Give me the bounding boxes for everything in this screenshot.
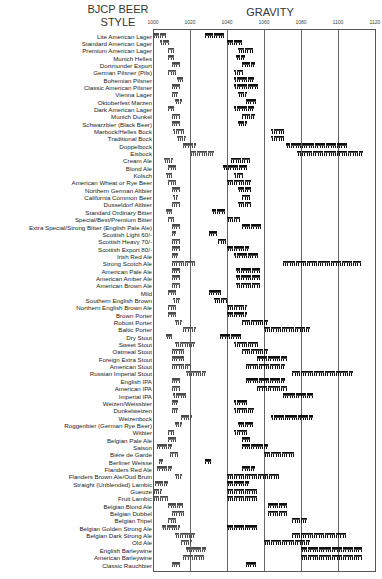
glass-icon <box>174 290 176 295</box>
final-gravity-range <box>190 151 218 157</box>
style-label: Schwarzbier (Black Beer) <box>82 121 152 128</box>
final-gravity-range <box>175 320 182 326</box>
style-label: Cream Ale <box>123 157 152 164</box>
original-gravity-range <box>234 70 245 76</box>
original-gravity-range <box>212 209 227 215</box>
final-gravity-range <box>168 180 177 186</box>
original-gravity-range <box>218 239 227 245</box>
original-gravity-range <box>234 106 256 112</box>
glass-icon <box>239 334 241 339</box>
original-gravity-range <box>246 364 292 370</box>
glass-icon <box>212 151 214 156</box>
final-gravity-range <box>175 342 197 348</box>
style-label: Foreign Extra Stout <box>99 356 152 363</box>
glass-icon <box>251 48 253 53</box>
original-gravity-range <box>227 246 253 252</box>
glass-icon <box>170 444 172 449</box>
glass-icon <box>178 239 180 244</box>
glass-icon <box>241 173 243 178</box>
glass-icon <box>178 246 180 251</box>
original-gravity-range <box>246 378 292 384</box>
style-label: Standard Ordinary Bitter <box>85 209 152 216</box>
glass-icon <box>345 143 347 148</box>
style-label: Belgian Dubbel <box>110 510 152 517</box>
original-gravity-range <box>238 48 257 54</box>
glass-icon <box>308 327 310 332</box>
style-label: Blond Ale <box>126 165 152 172</box>
glass-icon <box>174 518 176 523</box>
style-label: Northern English Brown Ale <box>76 304 152 311</box>
glass-icon <box>172 217 174 222</box>
glass-icon <box>255 489 257 494</box>
final-gravity-range <box>183 143 198 149</box>
glass-icon <box>224 239 226 244</box>
style-label: Bohemian Pilsner <box>104 77 153 84</box>
style-label: Strong Scotch Ale <box>103 260 152 267</box>
original-gravity-range <box>292 533 357 539</box>
glass-icon <box>190 415 192 420</box>
style-label: Straight (Unblended) Lambic <box>73 481 152 488</box>
glass-icon <box>249 180 251 185</box>
original-gravity-range <box>227 496 264 502</box>
final-gravity-range <box>172 562 183 568</box>
final-gravity-range <box>186 371 208 377</box>
final-gravity-range <box>153 496 172 502</box>
glass-icon <box>222 33 224 38</box>
style-label: Flanders Brown Ale/Oud Bruin <box>69 473 152 480</box>
final-gravity-range <box>177 77 184 83</box>
original-gravity-range <box>236 275 264 281</box>
original-gravity-range <box>301 555 375 561</box>
style-label: Dark American Lager <box>94 106 152 113</box>
original-gravity-range <box>292 518 311 524</box>
glass-icon <box>166 496 168 501</box>
glass-icon <box>176 253 178 258</box>
x-tick-label: 1120 <box>365 19 382 25</box>
glass-icon <box>255 496 257 501</box>
style-label: Gueuze <box>130 488 152 495</box>
glass-icon <box>245 400 247 405</box>
original-gravity-range <box>234 77 256 83</box>
style-label: Irish Red Ale <box>117 253 152 260</box>
glass-icon <box>170 173 172 178</box>
original-gravity-range <box>238 202 253 208</box>
style-label: Extra Special/Strong Bitter (English Pal… <box>29 224 152 231</box>
glass-icon <box>219 290 221 295</box>
style-label: American Amber Ale <box>96 275 152 282</box>
glass-icon <box>170 334 172 339</box>
style-label: Vienna Lager <box>115 91 152 98</box>
final-gravity-range <box>172 187 181 193</box>
style-label: Munich Helles <box>113 55 152 62</box>
glass-icon <box>181 503 183 508</box>
glass-icon <box>266 349 268 354</box>
glass-icon <box>361 151 363 156</box>
glass-icon <box>215 231 217 236</box>
original-gravity-range <box>234 173 245 179</box>
style-label: Dortmunder Export <box>100 62 152 69</box>
glass-icon <box>248 437 250 442</box>
original-gravity-range <box>234 408 256 414</box>
original-gravity-range <box>271 136 286 142</box>
style-label: Witbier <box>133 429 152 436</box>
style-label: Sweet Stout <box>119 341 152 348</box>
final-gravity-range <box>157 466 176 472</box>
style-label: California Common Beer <box>84 194 152 201</box>
glass-icon <box>204 371 206 376</box>
original-gravity-range <box>268 511 292 517</box>
final-gravity-range <box>175 422 182 428</box>
final-gravity-range <box>168 70 177 76</box>
original-gravity-range <box>227 217 242 223</box>
glass-icon <box>255 525 257 530</box>
final-gravity-range <box>160 40 171 46</box>
style-label: Traditional Bock <box>108 135 152 142</box>
original-gravity-range <box>242 62 257 68</box>
final-gravity-range <box>177 136 188 142</box>
final-gravity-range <box>162 525 182 531</box>
original-gravity-range <box>205 33 227 39</box>
final-gravity-range <box>172 378 181 384</box>
plot-area <box>153 29 376 572</box>
original-gravity-range <box>242 114 257 120</box>
final-gravity-range <box>172 202 181 208</box>
original-gravity-range <box>246 99 259 105</box>
final-gravity-range <box>172 356 187 362</box>
final-gravity-range <box>183 555 209 561</box>
